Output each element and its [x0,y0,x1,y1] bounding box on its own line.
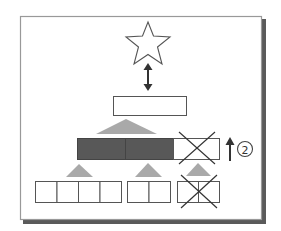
hierarchy-diagram: 2 [0,0,281,231]
cell [36,182,58,203]
cell [128,182,150,203]
middle-segment-1 [78,139,126,160]
bottom-group-2 [128,182,171,203]
cell [57,182,79,203]
cell [79,182,101,203]
circled-number-badge: 2 [238,142,253,157]
cell [199,182,220,203]
top-box [114,97,187,116]
bottom-group-1 [36,182,122,203]
cell [178,182,199,203]
middle-segment-2 [126,139,174,160]
cell [149,182,171,203]
badge-number: 2 [242,144,249,157]
cell [100,182,122,203]
